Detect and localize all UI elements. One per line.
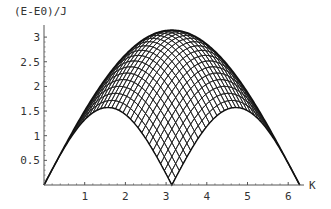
y-tick-label: 3 [33, 31, 40, 44]
y-tick-label: 1.5 [20, 105, 40, 118]
y-ticks: 0.511.522.53 [20, 31, 47, 180]
x-tick-label: 6 [285, 190, 292, 203]
x-tick-label: 2 [122, 190, 129, 203]
y-tick-label: 1 [33, 130, 40, 143]
continuum-mesh [44, 30, 300, 185]
y-tick-label: 2.5 [20, 56, 40, 69]
spectrum-chart: 123456 0.511.522.53 (E-E0)/J K [0, 0, 331, 209]
y-axis-label: (E-E0)/J [14, 5, 67, 18]
x-axis-label: K [309, 179, 316, 192]
x-tick-label: 4 [203, 190, 210, 203]
x-tick-label: 3 [163, 190, 170, 203]
y-tick-label: 0.5 [20, 154, 40, 167]
y-tick-label: 2 [33, 80, 40, 93]
x-tick-label: 5 [244, 190, 251, 203]
x-tick-label: 1 [81, 190, 88, 203]
